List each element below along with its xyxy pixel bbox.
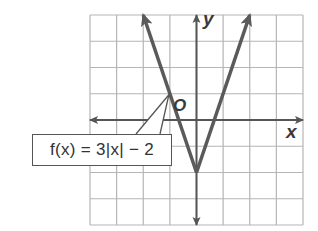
origin-label: O xyxy=(173,96,186,116)
axes xyxy=(90,15,303,225)
coordinate-plane xyxy=(0,0,318,231)
function-label-box: f(x) = 3|x| − 2 xyxy=(32,134,172,166)
x-axis-label: x xyxy=(286,121,297,143)
y-axis-label: y xyxy=(203,8,214,30)
label-leader-lines xyxy=(136,95,169,134)
function-label: f(x) = 3|x| − 2 xyxy=(50,140,154,160)
